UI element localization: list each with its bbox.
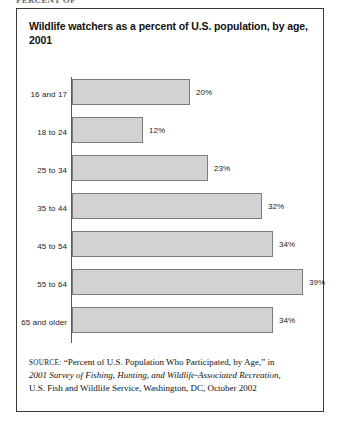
- category-label: 16 and 17: [17, 90, 67, 99]
- source-line-3: U.S. Fish and Wildlife Service, Washingt…: [29, 383, 257, 393]
- bar-row: 25 to 3423%: [17, 154, 323, 192]
- bar-row: 16 and 1720%: [17, 78, 323, 116]
- bar-value-label: 32%: [268, 202, 284, 211]
- bar-value-label: 39%: [309, 278, 325, 287]
- bar: [72, 117, 143, 143]
- category-label: 45 to 54: [17, 242, 67, 251]
- figure-title: Wildlife watchers as a percent of U.S. p…: [29, 19, 313, 47]
- bar: [72, 155, 208, 181]
- bar-row: 45 to 5434%: [17, 230, 323, 268]
- category-label: 25 to 34: [17, 166, 67, 175]
- bar-row: 35 to 4432%: [17, 192, 323, 230]
- bar-row: 55 to 6439%: [17, 268, 323, 306]
- clipped-page-header: PERCENT OF: [16, 0, 136, 4]
- bar-value-label: 34%: [279, 240, 295, 249]
- bar: [72, 307, 273, 333]
- bar: [72, 79, 190, 105]
- bar-row: 65 and older34%: [17, 306, 323, 344]
- bar: [72, 231, 273, 257]
- bar-value-label: 20%: [196, 88, 212, 97]
- category-label: 55 to 64: [17, 280, 67, 289]
- bar: [72, 193, 262, 219]
- source-note: Source: “Percent of U.S. Population Who …: [29, 356, 317, 394]
- category-label: 18 to 24: [17, 128, 67, 137]
- bar-value-label: 23%: [214, 164, 230, 173]
- bar-chart-plot-area: 16 and 1720%18 to 2412%25 to 3423%35 to …: [17, 69, 323, 347]
- bar-value-label: 34%: [279, 316, 295, 325]
- figure-container: Wildlife watchers as a percent of U.S. p…: [16, 8, 324, 412]
- source-label: Source:: [29, 359, 61, 367]
- bar-row: 18 to 2412%: [17, 116, 323, 154]
- category-label: 35 to 44: [17, 204, 67, 213]
- category-label: 65 and older: [17, 318, 67, 327]
- bar-value-label: 12%: [149, 126, 165, 135]
- source-line-2: 2001 Survey of Fishing, Hunting, and Wil…: [29, 370, 281, 380]
- bar: [72, 269, 303, 295]
- source-line-1: “Percent of U.S. Population Who Particip…: [64, 357, 275, 367]
